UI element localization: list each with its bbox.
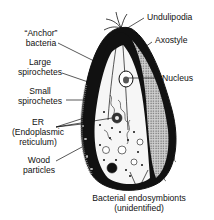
label-undulipodia: Undulipodia	[147, 12, 192, 22]
label-text: Large	[14, 57, 66, 67]
label-text: reticulum)	[8, 137, 68, 147]
label-wood-particles: Wood particles	[20, 155, 58, 175]
label-anchor-bacteria: “Anchor” bacteria	[20, 28, 62, 48]
label-text: spirochetes	[14, 67, 66, 77]
label-text: Bacterial endosymbionts	[80, 193, 198, 203]
label-text: Undulipodia	[147, 12, 192, 22]
nucleus-shape	[119, 71, 133, 87]
label-text: ER	[8, 117, 68, 127]
label-text: Small	[14, 86, 66, 96]
label-text: (unidentified)	[80, 203, 198, 213]
label-axostyle: Axostyle	[155, 35, 187, 45]
label-text: spirochetes	[14, 96, 66, 106]
label-text: (Endoplasmic	[8, 127, 68, 137]
label-bacterial-endosymbionts: Bacterial endosymbionts (unidentified)	[80, 193, 198, 213]
cell-body	[81, 27, 176, 190]
label-nucleus: Nucleus	[162, 73, 193, 83]
label-large-spirochetes: Large spirochetes	[14, 57, 66, 77]
label-small-spirochetes: Small spirochetes	[14, 86, 66, 106]
label-text: particles	[20, 165, 58, 175]
diagram-canvas: Undulipodia Axostyle Nucleus “Anchor” ba…	[0, 0, 214, 220]
label-er: ER (Endoplasmic reticulum)	[8, 117, 68, 147]
label-text: bacteria	[20, 38, 62, 48]
label-text: “Anchor”	[20, 28, 62, 38]
label-text: Wood	[20, 155, 58, 165]
label-text: Nucleus	[162, 73, 193, 83]
label-text: Axostyle	[155, 35, 187, 45]
